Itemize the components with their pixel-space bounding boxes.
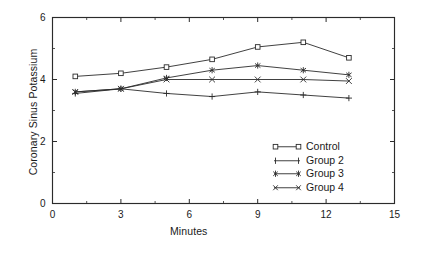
marker-open-square [73,74,78,79]
marker-open-square [347,56,352,61]
y-axis-title: Coronary Sinus Potassium [27,17,39,207]
marker-open-square [164,65,169,70]
legend-item-control: Control [272,140,344,154]
x-axis-title: Minutes [170,225,207,237]
x-tick-label: 3 [111,209,131,220]
x-tick-label: 15 [385,209,405,220]
marker-open-square [119,71,124,76]
marker-open-square [301,40,306,45]
series-line-group-4 [75,80,349,92]
y-tick-label: 4 [28,74,46,85]
line-chart-plot [0,0,426,272]
legend-item-group-4: Group 4 [272,181,344,195]
legend-label-control: Control [306,140,340,154]
x-tick-label: 0 [43,209,63,220]
legend-marker-asterisk-icon [272,167,302,181]
x-tick-label: 12 [316,209,336,220]
legend-label-group-2: Group 2 [306,154,344,168]
legend-label-group-4: Group 4 [306,181,344,195]
legend-marker-plus-icon [272,154,302,168]
legend-marker-open-square-icon [272,140,302,154]
marker-open-square [210,57,215,62]
marker-open-square [255,45,260,50]
y-tick-label: 2 [28,136,46,147]
x-tick-label: 6 [179,209,199,220]
legend-item-group-3: Group 3 [272,167,344,181]
y-tick-label: 0 [28,198,46,209]
x-tick-label: 9 [248,209,268,220]
chart-legend: Control Group 2 Grou [272,140,344,194]
legend-item-group-2: Group 2 [272,154,344,168]
y-tick-label: 6 [28,12,46,23]
chart-figure: Coronary Sinus Potassium Minutes 0369121… [0,0,426,272]
legend-label-group-3: Group 3 [306,167,344,181]
legend-marker-cross-icon [272,181,302,195]
